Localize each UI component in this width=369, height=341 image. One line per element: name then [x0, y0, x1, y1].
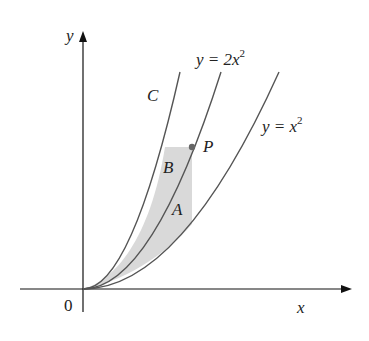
point-p-label: P [202, 137, 213, 156]
x-axis-label: x [296, 298, 305, 317]
point-p [189, 144, 195, 150]
curve-2x2-label: y = 2x2 [194, 47, 245, 69]
curve-x2-label: y = x2 [260, 114, 303, 136]
region-b-label: B [163, 158, 174, 177]
x-axis-arrow-icon [341, 285, 352, 293]
curve-c-label: C [147, 86, 159, 105]
y-axis-arrow-icon [79, 31, 87, 42]
y-axis-label: y [64, 26, 74, 45]
origin-label: 0 [64, 296, 73, 315]
figure-canvas: y x 0 C y = 2x2 y = x2 B A P [0, 0, 369, 341]
region-a-label: A [171, 200, 183, 219]
